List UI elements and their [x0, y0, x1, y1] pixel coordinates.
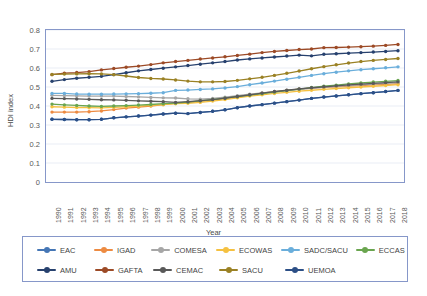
- legend-marker-icon: [219, 266, 238, 274]
- legend-marker-icon: [216, 246, 235, 254]
- data-point: [335, 52, 338, 55]
- x-tick-label: 2004: [228, 207, 235, 223]
- data-point: [75, 72, 78, 75]
- data-point: [359, 68, 362, 71]
- data-point: [223, 80, 226, 83]
- x-tick-label: 2000: [179, 207, 186, 223]
- x-tick-label: 2012: [327, 207, 334, 223]
- legend-label: EAC: [60, 246, 75, 255]
- data-point: [396, 80, 399, 83]
- data-point: [384, 66, 387, 69]
- legend-row-1: EACIGADCOMESAECOWASSADC/SACUECCAS: [23, 241, 407, 259]
- data-point: [335, 94, 338, 97]
- data-point: [186, 79, 189, 82]
- data-point: [285, 72, 288, 75]
- data-point: [112, 67, 115, 70]
- data-point: [112, 116, 115, 119]
- plot-area: [45, 29, 405, 183]
- x-tick-label: 1992: [80, 207, 87, 223]
- data-point: [310, 97, 313, 100]
- x-tick-label: 2002: [203, 207, 210, 223]
- data-point: [335, 84, 338, 87]
- data-point: [372, 67, 375, 70]
- data-point: [236, 58, 239, 61]
- data-point: [310, 47, 313, 50]
- legend-item-sadc-sacu[interactable]: SADC/SACU: [281, 246, 356, 255]
- data-point: [100, 109, 103, 112]
- data-point: [149, 96, 152, 99]
- x-tick-label: 2006: [253, 207, 260, 223]
- data-point: [63, 110, 66, 113]
- data-point: [347, 61, 350, 64]
- data-point: [100, 98, 103, 101]
- legend-marker-icon: [285, 266, 304, 274]
- legend-item-gafta[interactable]: GAFTA: [95, 266, 153, 275]
- x-tick-label: 1998: [154, 207, 161, 223]
- data-point: [396, 65, 399, 68]
- data-point: [384, 81, 387, 84]
- data-point: [162, 66, 165, 69]
- data-point: [63, 97, 66, 100]
- x-tick-label: 2009: [290, 207, 297, 223]
- legend-item-cemac[interactable]: CEMAC: [153, 266, 219, 275]
- data-point: [174, 78, 177, 81]
- data-point: [347, 51, 350, 54]
- x-tick-label: 1999: [166, 207, 173, 223]
- legend-label: ECCAS: [379, 246, 405, 255]
- legend-item-eac[interactable]: EAC: [37, 246, 94, 255]
- data-point: [260, 56, 263, 59]
- data-point: [137, 114, 140, 117]
- legend-label: CEMAC: [176, 266, 203, 275]
- data-point: [347, 93, 350, 96]
- legend-item-sacu[interactable]: SACU: [219, 266, 285, 275]
- legend-item-amu[interactable]: AMU: [37, 266, 95, 275]
- legend-marker-icon: [356, 246, 375, 254]
- data-point: [310, 67, 313, 70]
- data-point: [162, 77, 165, 80]
- data-point: [100, 105, 103, 108]
- data-point: [322, 53, 325, 56]
- x-tick-label: 1994: [104, 207, 111, 223]
- x-tick-label: 2008: [277, 207, 284, 223]
- y-axis-title: HDI index: [6, 61, 15, 161]
- data-point: [199, 111, 202, 114]
- data-point: [199, 99, 202, 102]
- data-point: [273, 90, 276, 93]
- legend-item-ecowas[interactable]: ECOWAS: [216, 246, 281, 255]
- data-point: [124, 66, 127, 69]
- legend-item-eccas[interactable]: ECCAS: [356, 246, 407, 255]
- data-point: [149, 77, 152, 80]
- data-point: [87, 93, 90, 96]
- data-point: [335, 46, 338, 49]
- data-point: [137, 95, 140, 98]
- data-point: [297, 76, 300, 79]
- y-tick-label: 0.4: [30, 102, 40, 111]
- y-tick-label: 0.2: [30, 140, 40, 149]
- data-point: [310, 74, 313, 77]
- data-point: [112, 98, 115, 101]
- data-point: [162, 112, 165, 115]
- data-point: [273, 55, 276, 58]
- data-point: [372, 82, 375, 85]
- data-point: [186, 112, 189, 115]
- x-tick-label: 2016: [376, 207, 383, 223]
- data-point: [50, 92, 53, 95]
- legend-item-igad[interactable]: IGAD: [94, 246, 151, 255]
- legend-item-uemoa[interactable]: UEMOA: [285, 266, 361, 275]
- data-point: [112, 73, 115, 76]
- data-point: [273, 74, 276, 77]
- series-amu: [50, 49, 399, 83]
- legend-marker-icon: [37, 266, 56, 274]
- data-point: [50, 110, 53, 113]
- data-point: [322, 65, 325, 68]
- data-point: [124, 71, 127, 74]
- data-point: [50, 118, 53, 121]
- data-point: [248, 104, 251, 107]
- data-point: [149, 68, 152, 71]
- data-point: [297, 69, 300, 72]
- data-point: [384, 50, 387, 53]
- legend-item-comesa[interactable]: COMESA: [151, 246, 216, 255]
- data-point: [248, 83, 251, 86]
- data-point: [335, 70, 338, 73]
- data-point: [186, 88, 189, 91]
